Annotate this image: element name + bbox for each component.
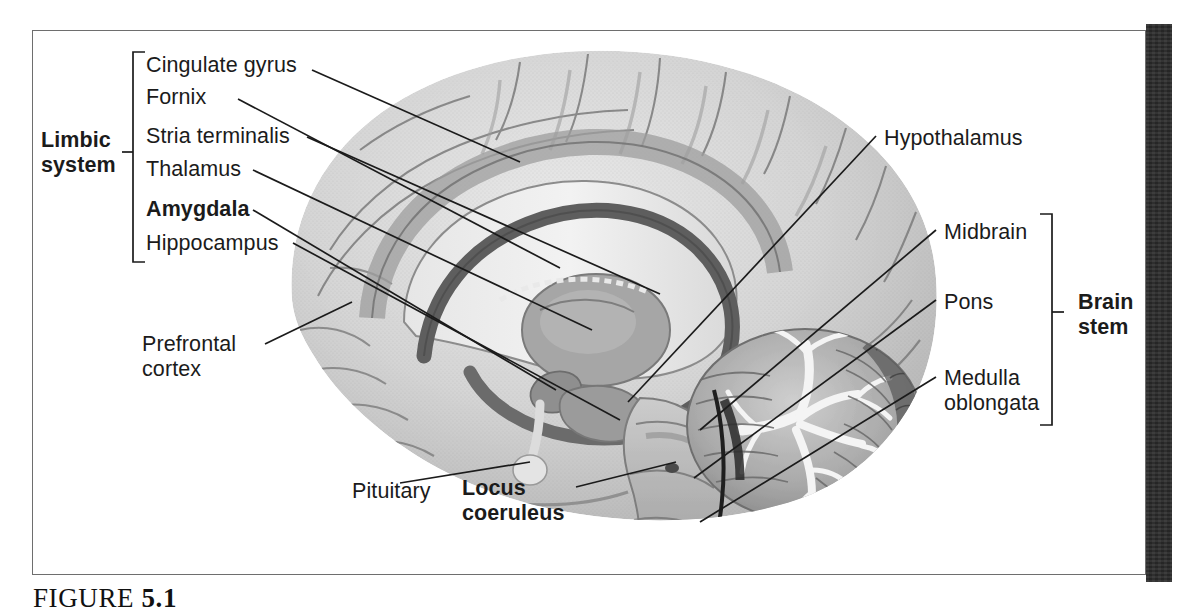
- label-cingulate-gyrus: Cingulate gyrus: [146, 53, 297, 78]
- figure-caption-label: FIGURE: [33, 583, 134, 611]
- brainstem-line2: stem: [1078, 315, 1129, 339]
- medulla-line1: Medulla: [944, 366, 1020, 390]
- group-label-brain-stem: Brain stem: [1078, 290, 1133, 340]
- label-amygdala: Amygdala: [146, 197, 250, 222]
- figure-caption: FIGURE 5.1: [33, 583, 177, 611]
- group-label-limbic-system: Limbic system: [41, 128, 116, 178]
- label-thalamus: Thalamus: [146, 157, 241, 182]
- label-medulla-oblongata: Medulla oblongata: [944, 366, 1039, 416]
- label-hippocampus: Hippocampus: [146, 231, 279, 256]
- limbic-line1: Limbic: [41, 128, 111, 152]
- label-pons: Pons: [944, 290, 993, 315]
- brainstem-line1: Brain: [1078, 290, 1133, 314]
- brainstem-bracket: [1040, 214, 1064, 425]
- locus-line2: coeruleus: [462, 501, 564, 525]
- locus-line1: Locus: [462, 476, 526, 500]
- label-hypothalamus: Hypothalamus: [884, 126, 1023, 151]
- label-prefrontal-cortex: Prefrontal cortex: [142, 332, 236, 382]
- limbic-line2: system: [41, 153, 116, 177]
- figure-caption-number: 5.1: [141, 583, 177, 611]
- prefrontal-line2: cortex: [142, 357, 201, 381]
- label-locus-coeruleus: Locus coeruleus: [462, 476, 564, 526]
- medulla-boundary: [634, 518, 712, 534]
- limbic-bracket: [122, 52, 145, 262]
- label-midbrain: Midbrain: [944, 220, 1027, 245]
- label-stria-terminalis: Stria terminalis: [146, 124, 290, 149]
- label-fornix: Fornix: [146, 85, 206, 110]
- medulla-line2: oblongata: [944, 391, 1039, 415]
- label-pituitary: Pituitary: [352, 479, 431, 504]
- prefrontal-line1: Prefrontal: [142, 332, 236, 356]
